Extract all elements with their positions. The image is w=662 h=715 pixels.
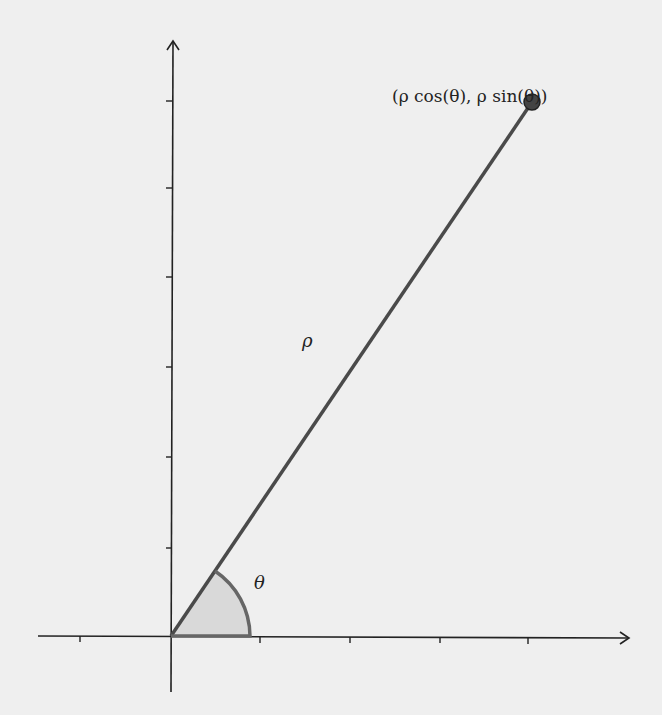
- x-axis: [38, 636, 628, 638]
- angle-sector: [171, 571, 250, 636]
- polar-diagram: [0, 0, 662, 715]
- angle-label: θ: [254, 572, 265, 593]
- radius-label: ρ: [302, 330, 313, 351]
- point-label: (ρ cos(θ), ρ sin(θ)): [392, 86, 547, 106]
- radius-ray: [171, 102, 532, 636]
